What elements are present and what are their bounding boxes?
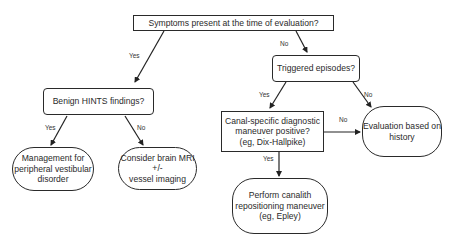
edge-label-triggered-no: No [364,91,372,98]
edge-label-canal-no: No [339,116,347,123]
node-mri-line-3: vessel imaging [129,174,186,185]
node-symptoms-text: Symptoms present at the time of evaluati… [148,18,318,29]
node-hints-text: Benign HINTS findings? [53,96,145,107]
edge-symptoms-triggered [296,31,307,52]
node-hints: Benign HINTS findings? [43,88,154,115]
edge-triggered-canal [270,82,286,108]
node-history-line-2: history [389,132,414,143]
node-triggered-text: Triggered episodes? [277,63,355,74]
node-canal-line-1: Canal-specific diagnostic [225,116,320,127]
node-management-line-3: disorder [37,174,68,185]
node-epley-line-1: Perform canalith [249,190,312,201]
edge-label-symptoms-no: No [280,40,288,47]
edge-label-triggered-yes: Yes [259,91,270,98]
node-mri-line-1: Consider brain MRI [120,153,194,164]
node-history-line-1: Evaluation based on [363,121,441,132]
node-canal: Canal-specific diagnostic maneuver posit… [221,111,324,152]
node-epley-line-3: (eg, Epley) [259,211,301,222]
node-management-line-2: peripheral vestibular [14,164,91,175]
node-mri-line-2: +/- [152,163,162,174]
node-management-line-1: Management for [22,153,85,164]
edge-label-hints-yes: Yes [45,124,56,131]
edge-label-hints-no: No [137,124,145,131]
node-epley: Perform canalith repositioning maneuver … [232,178,328,234]
node-mri: Consider brain MRI +/- vessel imaging [118,147,197,190]
node-management: Management for peripheral vestibular dis… [12,147,94,191]
node-epley-line-2: repositioning maneuver [235,201,324,212]
node-triggered: Triggered episodes? [272,55,360,82]
edge-label-symptoms-yes: Yes [129,52,140,59]
node-canal-line-2: maneuver positive? [235,126,310,137]
node-symptoms: Symptoms present at the time of evaluati… [133,15,334,31]
node-history: Evaluation based on history [362,106,442,157]
edge-label-canal-yes: Yes [263,155,274,162]
node-canal-line-3: (eg, Dix-Hallpike) [240,137,306,148]
